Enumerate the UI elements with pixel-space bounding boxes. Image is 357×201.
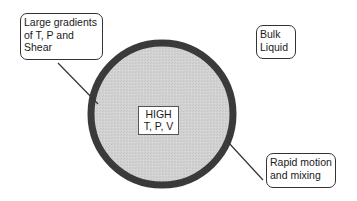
connector-line-top-left	[58, 63, 98, 104]
center-label-line-1: HIGH	[142, 108, 175, 120]
center-label-high-tpv: HIGH T, P, V	[138, 106, 179, 135]
callout-bulk-liquid: Bulk Liquid	[256, 25, 296, 59]
callout-gradients: Large gradients of T, P and Shear	[20, 13, 103, 60]
callout-gradients-line-3: Shear	[24, 41, 99, 54]
center-label-line-2: T, P, V	[142, 120, 175, 132]
callout-rapid-line-1: Rapid motion	[270, 156, 332, 169]
callout-bulk-line-1: Bulk	[260, 28, 292, 41]
callout-gradients-line-2: of T, P and	[24, 29, 99, 42]
callout-rapid-line-2: and mixing	[270, 169, 332, 182]
connector-line-bottom-right	[228, 142, 263, 180]
callout-rapid-motion: Rapid motion and mixing	[266, 153, 336, 188]
callout-gradients-line-1: Large gradients	[24, 16, 99, 29]
callout-bulk-line-2: Liquid	[260, 41, 292, 54]
